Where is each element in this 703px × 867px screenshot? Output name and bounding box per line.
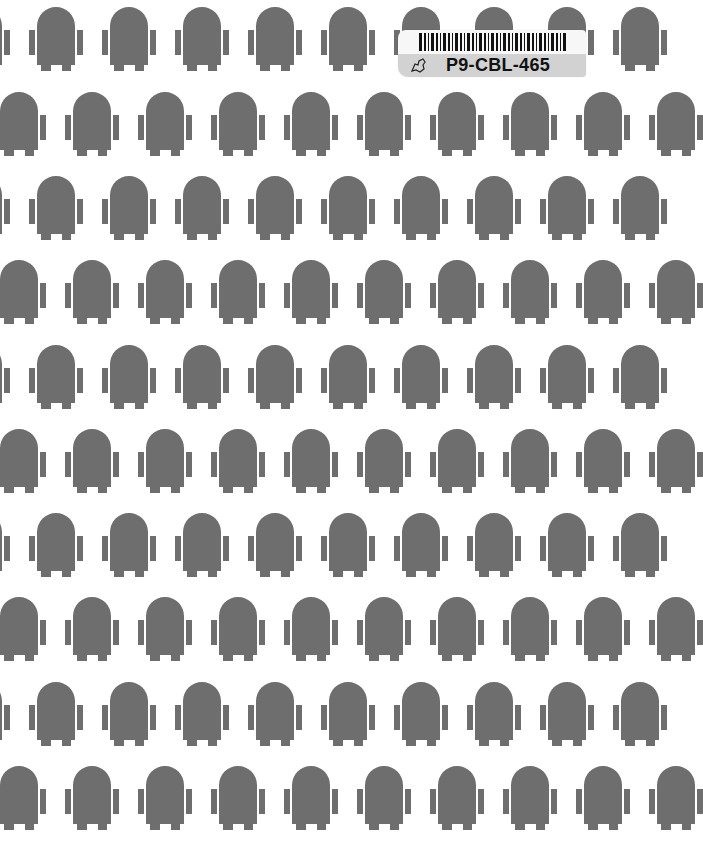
robot-icon (321, 176, 375, 246)
robot-icon (649, 429, 703, 499)
robot-icon (613, 345, 667, 415)
robot-icon (0, 7, 10, 77)
robot-icon (248, 682, 302, 752)
robot-icon (0, 429, 46, 499)
robot-icon (503, 260, 557, 330)
robot-icon (0, 345, 10, 415)
robot-icon (65, 429, 119, 499)
robot-icon (211, 429, 265, 499)
label-code-strip: P9-CBL-465 (398, 54, 586, 77)
robot-icon (649, 92, 703, 162)
robot-icon (613, 176, 667, 246)
robot-icon (29, 682, 83, 752)
robot-icon (540, 176, 594, 246)
robot-icon (503, 92, 557, 162)
robot-icon (430, 429, 484, 499)
robot-icon (102, 345, 156, 415)
robot-icon (613, 513, 667, 583)
robot-icon (576, 597, 630, 667)
robot-icon (321, 345, 375, 415)
robot-icon (65, 597, 119, 667)
robot-icon (138, 766, 192, 836)
robot-icon (102, 682, 156, 752)
robot-icon (175, 682, 229, 752)
robot-icon (467, 682, 521, 752)
robot-icon (284, 766, 338, 836)
robot-icon (467, 345, 521, 415)
robot-icon (0, 176, 10, 246)
robot-icon (211, 766, 265, 836)
robot-icon (321, 682, 375, 752)
label-code: P9-CBL-465 (446, 55, 550, 76)
robot-icon (0, 92, 46, 162)
map-outline-icon (410, 58, 428, 74)
robot-icon (430, 597, 484, 667)
robot-icon (102, 513, 156, 583)
barcode-strip (398, 30, 586, 54)
robot-icon (0, 513, 10, 583)
robot-icon (540, 682, 594, 752)
robot-icon (0, 682, 10, 752)
robot-icon (248, 7, 302, 77)
robot-icon (138, 597, 192, 667)
robot-icon (467, 513, 521, 583)
robot-icon (430, 766, 484, 836)
robot-icon (65, 260, 119, 330)
robot-icon (284, 92, 338, 162)
robot-icon (576, 260, 630, 330)
robot-icon (284, 597, 338, 667)
robot-icon (649, 597, 703, 667)
robot-icon (175, 7, 229, 77)
robot-icon (394, 176, 448, 246)
robot-icon (357, 429, 411, 499)
robot-icon (211, 260, 265, 330)
robot-icon (284, 260, 338, 330)
robot-icon (102, 7, 156, 77)
robot-icon (503, 766, 557, 836)
robot-icon (321, 7, 375, 77)
robot-icon (540, 345, 594, 415)
robot-icon (0, 597, 46, 667)
robot-icon (430, 260, 484, 330)
robot-icon (29, 176, 83, 246)
robot-icon (138, 92, 192, 162)
robot-icon (211, 597, 265, 667)
robot-icon (248, 513, 302, 583)
robot-icon (467, 176, 521, 246)
robot-icon (211, 92, 265, 162)
robot-icon (248, 345, 302, 415)
robot-icon (0, 766, 46, 836)
robot-icon (138, 260, 192, 330)
robot-icon (65, 766, 119, 836)
barcode-icon (417, 33, 567, 51)
robot-icon (503, 597, 557, 667)
robot-icon (321, 513, 375, 583)
robot-icon (357, 766, 411, 836)
robot-icon (0, 260, 46, 330)
robot-icon (29, 7, 83, 77)
robot-icon (175, 176, 229, 246)
robot-icon (649, 766, 703, 836)
robot-icon (29, 513, 83, 583)
robot-icon (576, 766, 630, 836)
robot-icon (503, 429, 557, 499)
robot-icon (175, 513, 229, 583)
robot-icon (248, 176, 302, 246)
robot-icon (138, 429, 192, 499)
robot-icon (175, 345, 229, 415)
robot-icon (576, 429, 630, 499)
robot-icon (29, 345, 83, 415)
robot-icon (357, 597, 411, 667)
library-barcode-label: P9-CBL-465 (398, 30, 586, 77)
robot-icon (394, 345, 448, 415)
robot-icon (576, 92, 630, 162)
robot-icon (284, 429, 338, 499)
robot-icon (613, 682, 667, 752)
robot-icon (394, 682, 448, 752)
robot-icon (65, 92, 119, 162)
robot-icon (357, 260, 411, 330)
robot-icon (540, 513, 594, 583)
robot-icon (357, 92, 411, 162)
robot-icon (613, 7, 667, 77)
